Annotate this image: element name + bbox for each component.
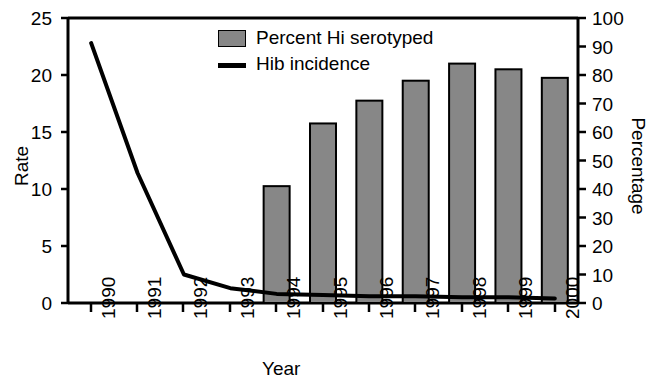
- bar-2000: [542, 78, 568, 303]
- left-tick-5: 5: [6, 237, 52, 256]
- x-tick-1993: 1993: [238, 277, 257, 319]
- x-tick-1995: 1995: [331, 277, 350, 319]
- y-axis-title: Rate: [11, 126, 33, 206]
- bar-1998: [449, 64, 475, 303]
- legend-swatch-percent-hi-serotyped: [218, 30, 246, 47]
- right-tick-100: 100: [592, 9, 640, 28]
- x-tick-1990: 1990: [99, 277, 118, 319]
- x-tick-1994: 1994: [284, 277, 303, 319]
- x-tick-1992: 1992: [191, 277, 210, 319]
- x-tick-1991: 1991: [145, 277, 164, 319]
- bar-1996: [356, 101, 382, 303]
- right-tick-0: 0: [592, 294, 640, 313]
- legend-swatch-hib-incidence: [218, 63, 246, 68]
- left-tick-20: 20: [6, 66, 52, 85]
- x-tick-1998: 1998: [470, 277, 489, 319]
- y2-axis-title: Percentage: [627, 106, 647, 226]
- left-tick-0: 0: [6, 294, 52, 313]
- bar-1997: [403, 81, 429, 303]
- x-tick-1999: 1999: [516, 277, 535, 319]
- x-tick-2000: 2000: [563, 277, 582, 319]
- x-tick-1997: 1997: [423, 277, 442, 319]
- legend-label-percent-hi-serotyped: Percent Hi serotyped: [256, 27, 433, 49]
- bar-series: [264, 64, 568, 303]
- right-tick-90: 90: [592, 38, 640, 57]
- right-tick-80: 80: [592, 66, 640, 85]
- x-axis-title: Year: [262, 358, 300, 380]
- chart-figure: 25 20 15 10 5 0 100 90 80 70 60 50 40 30…: [0, 0, 647, 386]
- right-tick-10: 10: [592, 266, 640, 285]
- legend-label-hib-incidence: Hib incidence: [256, 53, 370, 75]
- right-tick-20: 20: [592, 237, 640, 256]
- x-tick-1996: 1996: [377, 277, 396, 319]
- left-tick-25: 25: [6, 9, 52, 28]
- bar-1999: [495, 69, 521, 303]
